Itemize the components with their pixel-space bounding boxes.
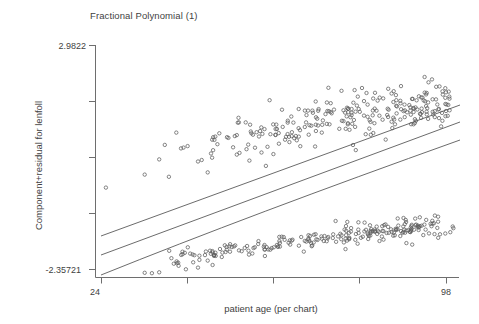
scatter-point	[364, 133, 367, 136]
scatter-point	[395, 112, 398, 115]
scatter-point	[290, 115, 293, 118]
scatter-point	[369, 133, 372, 136]
scatter-point	[247, 143, 250, 146]
scatter-point	[220, 255, 223, 258]
scatter-point	[332, 108, 335, 111]
scatter-point	[196, 266, 199, 269]
scatter-point	[258, 129, 261, 132]
scatter-point	[344, 127, 347, 130]
scatter-point	[448, 95, 451, 98]
scatter-point	[436, 226, 439, 229]
scatter-point	[211, 149, 214, 152]
scatter-point	[433, 232, 436, 235]
scatter-point	[368, 127, 371, 130]
scatter-point	[433, 115, 436, 118]
scatter-point	[280, 108, 283, 111]
scatter-point	[384, 138, 387, 141]
scatter-point	[150, 272, 153, 275]
scatter-point	[321, 123, 324, 126]
scatter-point	[399, 118, 402, 121]
scatter-point	[441, 90, 444, 93]
scatter-point	[237, 116, 240, 119]
scatter-point	[444, 232, 447, 235]
scatter-point	[340, 238, 343, 241]
scatter-point	[438, 233, 441, 236]
scatter-point	[336, 235, 339, 238]
scatter-point	[247, 249, 250, 252]
scatter-point	[320, 131, 323, 134]
scatter-point	[344, 224, 347, 227]
scatter-point	[360, 86, 363, 89]
scatter-point	[168, 249, 171, 252]
scatter-point	[365, 91, 368, 94]
scatter-point	[329, 102, 332, 105]
scatter-point	[327, 86, 330, 89]
plot-canvas	[0, 0, 479, 324]
scatter-point	[352, 118, 355, 121]
scatter-point	[362, 114, 365, 117]
scatter-point	[288, 140, 291, 143]
scatter-point	[403, 103, 406, 106]
scatter-point	[277, 142, 280, 145]
scatter-point	[278, 235, 281, 238]
scatter-point	[314, 129, 317, 132]
scatter-point	[170, 257, 173, 260]
scatter-point	[247, 253, 250, 256]
scatter-point	[304, 121, 307, 124]
scatter-point	[354, 238, 357, 241]
scatter-point	[405, 111, 408, 114]
scatter-point	[449, 231, 452, 234]
scatter-point	[253, 146, 256, 149]
scatter-point	[375, 225, 378, 228]
scatter-point	[186, 144, 189, 147]
scatter-point	[104, 186, 107, 189]
scatter-point	[390, 92, 393, 95]
scatter-point	[351, 122, 354, 125]
scatter-point	[313, 145, 316, 148]
scatter-point	[257, 135, 260, 138]
scatter-point	[184, 268, 187, 271]
scatter-point	[353, 125, 356, 128]
scatter-point	[441, 93, 444, 96]
scatter-point	[349, 226, 352, 229]
scatter-point	[394, 93, 397, 96]
scatter-point	[269, 133, 272, 136]
scatter-point	[209, 152, 212, 155]
scatter-point	[277, 131, 280, 134]
scatter-point	[426, 117, 429, 120]
scatter-point	[382, 97, 385, 100]
scatter-point	[158, 158, 161, 161]
scatter-point	[331, 236, 334, 239]
scatter-point	[354, 110, 357, 113]
scatter-point	[378, 114, 381, 117]
scatter-point	[396, 217, 399, 220]
scatter-point	[235, 153, 238, 156]
scatter-point	[363, 221, 366, 224]
scatter-point	[382, 238, 385, 241]
scatter-point	[436, 215, 439, 218]
scatter-point	[231, 146, 234, 149]
scatter-point	[192, 261, 195, 264]
scatter-point	[251, 252, 254, 255]
scatter-point	[427, 81, 430, 84]
scatter-point	[415, 99, 418, 102]
scatter-point	[435, 85, 438, 88]
scatter-point	[175, 131, 178, 134]
scatter-point	[392, 100, 395, 103]
scatter-point	[311, 111, 314, 114]
scatter-point	[414, 217, 417, 220]
scatter-point	[263, 127, 266, 130]
scatter-point	[436, 220, 439, 223]
scatter-point	[404, 218, 407, 221]
scatter-point	[292, 121, 295, 124]
scatter-point	[357, 228, 360, 231]
scatter-point	[436, 103, 439, 106]
scatter-point	[163, 143, 166, 146]
scatter-point	[424, 228, 427, 231]
scatter-point	[290, 131, 293, 134]
scatter-point	[245, 148, 248, 151]
fit-line-lower	[101, 140, 460, 275]
scatter-point	[405, 241, 408, 244]
scatter-point	[378, 239, 381, 242]
scatter-point	[437, 236, 440, 239]
